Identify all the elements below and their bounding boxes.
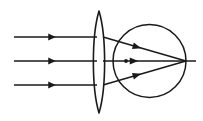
axis-point-dot — [124, 59, 128, 63]
biconvex-lens — [93, 11, 104, 113]
arrowhead-incoming-bottom — [48, 82, 56, 89]
refracted-ray-group — [103, 37, 186, 85]
arrowhead-refracted-bottom — [132, 73, 141, 80]
optics-diagram-canvas — [0, 0, 203, 121]
arrowhead-refracted-middle — [130, 58, 139, 65]
arrowhead-incoming-middle — [48, 58, 56, 65]
ray-diagram-figure — [0, 0, 203, 121]
arrowhead-refracted-top — [132, 43, 141, 50]
arrowhead-incoming-top — [48, 34, 56, 41]
incoming-ray-group — [14, 34, 97, 89]
